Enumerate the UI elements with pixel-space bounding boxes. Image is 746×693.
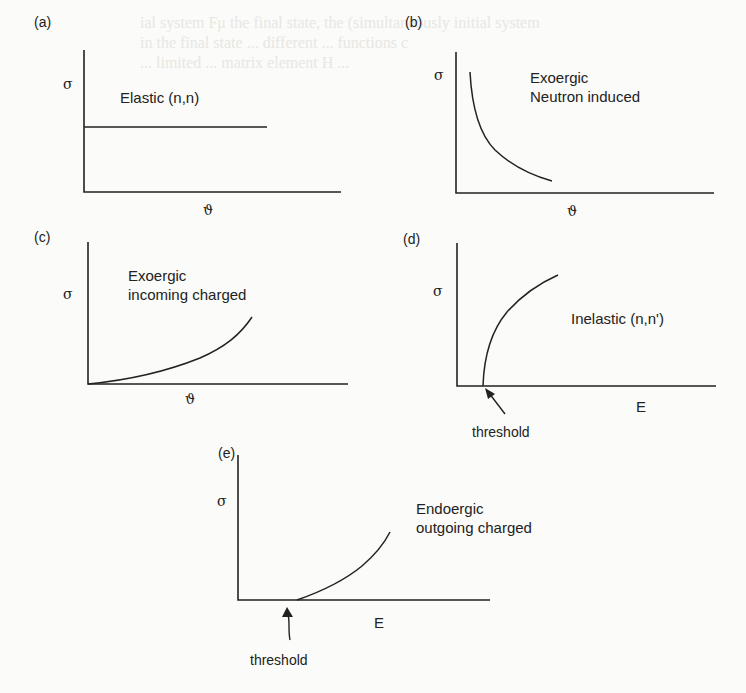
panel-label: (b) (405, 14, 422, 30)
panel-b: (b) σ ϑ Exoergic Neutron induced (405, 14, 714, 219)
panel-label: (a) (34, 14, 51, 30)
svg-text:ial system Fμ the final state,: ial system Fμ the final state, the (simu… (140, 14, 540, 32)
y-axis-label: σ (434, 67, 444, 83)
panel-label: (d) (403, 231, 420, 247)
x-axis-label: E (374, 614, 384, 631)
y-axis-label: σ (433, 283, 443, 299)
figure: ial system Fμ the final state, the (simu… (0, 0, 746, 693)
y-axis-label: σ (217, 493, 227, 509)
x-axis-label: ϑ (567, 203, 577, 219)
panel-d: (d) σ E Inelastic (n,n') threshold (403, 231, 716, 440)
annotation-line-2: Neutron induced (530, 88, 640, 105)
threshold-label: threshold (472, 424, 530, 440)
cross-section-curve (297, 532, 390, 600)
annotation-line-2: outgoing charged (416, 519, 532, 536)
y-axis-label: σ (63, 76, 73, 92)
panel-label: (c) (34, 229, 50, 245)
threshold-arrow-icon (485, 388, 505, 414)
annotation: Elastic (n,n) (120, 89, 199, 106)
annotation: Inelastic (n,n') (571, 310, 664, 327)
x-axis-label: ϑ (185, 391, 195, 407)
axes (84, 50, 341, 192)
panel-label: (e) (218, 445, 235, 461)
cross-section-curve (88, 317, 252, 384)
panel-c: (c) σ ϑ Exoergic incoming charged (34, 229, 348, 407)
x-axis-label: E (636, 398, 646, 415)
threshold-arrow-icon (282, 607, 293, 640)
panel-e: (e) σ E Endoergic outgoing charged thres… (217, 445, 532, 668)
annotation-line-1: Exoergic (128, 267, 187, 284)
svg-text:in the final state ... differe: in the final state ... different ... fun… (140, 34, 408, 51)
annotation-line-2: incoming charged (128, 286, 246, 303)
axes (88, 242, 348, 384)
svg-text:... limited ... matrix element: ... limited ... matrix element H ... (140, 54, 349, 71)
y-axis-label: σ (63, 286, 73, 302)
threshold-label: threshold (250, 652, 308, 668)
annotation-line-1: Endoergic (416, 500, 484, 517)
x-axis-label: ϑ (203, 202, 213, 218)
cross-section-curve (483, 275, 558, 386)
annotation-line-1: Exoergic (530, 69, 589, 86)
background-bleed-text: ial system Fμ the final state, the (simu… (140, 14, 540, 71)
